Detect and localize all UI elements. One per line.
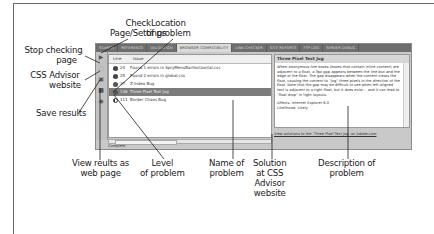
error-icon	[113, 74, 118, 79]
tab-site-reports[interactable]: SITE REPORTS	[267, 44, 301, 52]
horizontal-scrollbar[interactable]	[108, 139, 272, 144]
description-pane: Three Pixel Text Jog When anonymous line…	[274, 54, 410, 128]
issue-row[interactable]: 24 Found 1 errors in SpryMenuBarHorizont…	[109, 64, 271, 72]
info-icon	[113, 98, 118, 103]
callout-level: Levelof problem	[140, 158, 185, 178]
column-issue[interactable]: Issue	[133, 55, 143, 63]
tab-ftp-log[interactable]: FTP LOG	[300, 44, 323, 52]
issue-row[interactable]: 111 Border Chaos Bug	[109, 96, 271, 104]
browse-report-icon[interactable]: ◉	[98, 98, 104, 104]
save-icon[interactable]: ■	[98, 87, 104, 93]
callout-save-results: Save results	[36, 108, 86, 118]
issues-list: Line Issue 24 Found 1 errors in SpryMenu…	[108, 54, 272, 138]
issue-row[interactable]: 25 Found 2 errors in global.css	[109, 72, 271, 80]
description-body: When anonymous line boxes (boxes that co…	[275, 63, 409, 110]
solution-link[interactable]: View solutions to the 'Three Pixel Text …	[274, 132, 376, 137]
stop-icon[interactable]: ○	[98, 65, 104, 71]
column-line[interactable]: Line	[109, 55, 133, 63]
vertical-scrollbar[interactable]	[403, 63, 409, 127]
warning-icon	[113, 90, 118, 95]
results-panel: SEARCH REFERENCE VALIDATION BROWSER COMP…	[95, 43, 412, 150]
callout-location: Locationof problem	[146, 18, 191, 38]
error-icon	[113, 66, 118, 71]
callout-css-advisor: CSS Advisorwebsite	[20, 70, 90, 90]
tab-validation[interactable]: VALIDATION	[147, 44, 176, 52]
status-text: Complete.	[108, 144, 126, 149]
description-title: Three Pixel Text Jog	[275, 55, 409, 63]
issue-row[interactable]: 37 Z-Index Bug	[109, 80, 271, 88]
callout-view-results: View reults asweb page	[72, 158, 129, 178]
issue-row-selected[interactable]: 136 Three Pixel Text Jog	[109, 88, 271, 96]
results-toolbar: ▶ ○ ▣ ■ ◉	[96, 52, 108, 140]
tab-link-checker[interactable]: LINK CHECKER	[232, 44, 267, 52]
callout-description: Description ofproblem	[318, 158, 375, 178]
callout-stop-checking: Stop checkingpage	[16, 45, 91, 65]
tab-browser-compatibility[interactable]: BROWSER COMPATIBILITY	[177, 44, 232, 52]
tab-server-debug[interactable]: SERVER DEBUG	[323, 44, 359, 52]
callout-name: Name ofproblem	[209, 158, 244, 178]
tab-search[interactable]: SEARCH	[96, 44, 118, 52]
css-advisor-icon[interactable]: ▣	[98, 76, 104, 82]
callout-solution: Solutionat CSS Advisorwebsite	[253, 158, 286, 198]
list-header: Line Issue	[109, 55, 271, 64]
results-tabbar: SEARCH REFERENCE VALIDATION BROWSER COMP…	[96, 44, 411, 52]
tab-reference[interactable]: REFERENCE	[118, 44, 147, 52]
check-page-icon[interactable]: ▶	[98, 54, 104, 60]
warning-icon	[113, 82, 118, 87]
